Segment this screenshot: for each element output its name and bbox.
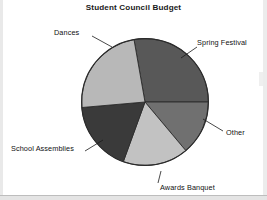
slice-label-other: Other — [226, 128, 245, 137]
leader-line-dances — [92, 36, 114, 48]
slice-label-spring-festival: Spring Festival — [197, 38, 247, 47]
slice-label-awards-banquet: Awards Banquet — [160, 183, 215, 192]
scan-edge-right — [263, 0, 267, 200]
chart-title: Student Council Budget — [0, 3, 267, 12]
slice-label-dances: Dances — [54, 28, 79, 37]
scan-edge-bottom — [0, 195, 267, 200]
leader-line-other — [203, 119, 225, 133]
scan-artifact — [259, 72, 263, 86]
leader-line-school-assemblies — [85, 140, 105, 152]
leader-line-awards-banquet — [157, 171, 167, 185]
pie-slice-dances[interactable] — [82, 40, 145, 108]
slice-label-school-assemblies: School Assemblies — [11, 144, 74, 153]
chart-figure: Student Council Budget Dances Spring Fes… — [0, 0, 267, 200]
scan-edge-left — [0, 0, 3, 200]
leader-line-spring-festival — [181, 47, 199, 59]
